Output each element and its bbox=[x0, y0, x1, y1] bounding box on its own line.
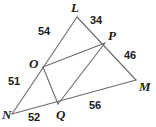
segment-N-M bbox=[12, 80, 136, 114]
vertex-label-L: L bbox=[71, 1, 79, 14]
vertex-label-N: N bbox=[2, 108, 11, 121]
measure-PM: 46 bbox=[124, 50, 136, 61]
measure-QM: 56 bbox=[89, 100, 101, 111]
vertex-label-P: P bbox=[108, 29, 116, 42]
vertex-label-M: M bbox=[139, 80, 151, 93]
segment-O-Q bbox=[43, 67, 58, 104]
measure-LO: 54 bbox=[38, 26, 50, 37]
measure-NQ: 52 bbox=[28, 112, 40, 123]
measure-ON: 51 bbox=[8, 76, 20, 87]
geometry-figure: LPMNQO543446515256 bbox=[0, 0, 156, 127]
vertex-label-Q: Q bbox=[56, 108, 65, 121]
geometry-canvas bbox=[0, 0, 156, 127]
measure-LP: 34 bbox=[90, 15, 102, 26]
vertex-label-O: O bbox=[29, 57, 38, 70]
